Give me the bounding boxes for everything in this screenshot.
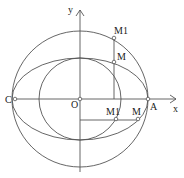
point-C — [13, 97, 17, 101]
point-O — [78, 97, 82, 101]
label-C: C — [5, 94, 12, 105]
label-O: O — [71, 99, 78, 110]
y-axis-label: y — [68, 4, 73, 15]
point-M1-lower — [114, 117, 118, 121]
point-M-lower — [136, 117, 140, 121]
label-M1-upper: M1 — [114, 25, 128, 36]
label-A: A — [150, 101, 158, 112]
label-M1-lower: M1 — [106, 106, 120, 117]
label-M-lower: M — [132, 106, 141, 117]
x-axis-label: x — [173, 103, 178, 114]
point-M1-upper — [112, 36, 116, 40]
ellipse-construction-diagram: y x C O A M1 M M1 M — [0, 0, 184, 178]
label-M-upper: M — [117, 51, 126, 62]
point-M-upper — [112, 60, 116, 64]
